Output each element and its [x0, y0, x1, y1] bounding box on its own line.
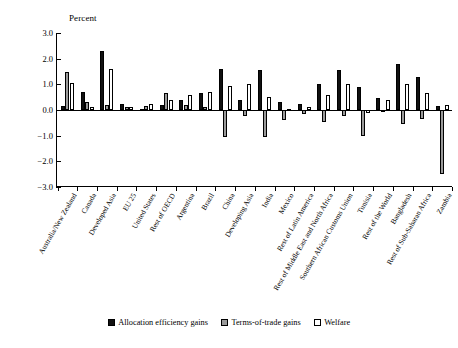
bar-1: [65, 72, 69, 111]
x-tick-mark: [373, 187, 374, 191]
bar-1: [381, 110, 385, 112]
bar-2: [267, 97, 271, 110]
bar-1: [85, 102, 89, 110]
bar-group: [160, 33, 173, 187]
bar-2: [188, 95, 192, 110]
bar-0: [357, 87, 361, 110]
x-tick-mark: [353, 187, 354, 191]
bar-0: [61, 106, 65, 110]
bar-2: [346, 84, 350, 110]
bar-0: [120, 104, 124, 110]
x-tick-mark: [452, 187, 453, 191]
bar-0: [100, 51, 104, 110]
bar-group: [179, 33, 192, 187]
y-axis-title: Percent: [69, 13, 97, 23]
bar-1: [322, 110, 326, 122]
bar-0: [396, 64, 400, 110]
legend-label: Welfare: [324, 318, 350, 327]
x-tick-mark: [413, 187, 414, 191]
y-tick-label: 0.0: [42, 106, 53, 115]
bar-2: [326, 95, 330, 110]
x-tick-mark: [334, 187, 335, 191]
bar-2: [208, 92, 212, 110]
bar-group: [140, 33, 153, 187]
bar-0: [81, 92, 85, 110]
bar-2: [149, 104, 153, 110]
bar-1: [203, 107, 207, 110]
x-axis-label: China: [220, 192, 235, 211]
x-tick-mark: [432, 187, 433, 191]
x-axis-label: Canada: [80, 192, 97, 215]
bar-group: [219, 33, 232, 187]
x-tick-mark: [176, 187, 177, 191]
bar-1: [243, 110, 247, 116]
bar-2: [70, 83, 74, 110]
legend-swatch-icon: [314, 319, 321, 326]
x-tick-mark: [97, 187, 98, 191]
bar-group: [100, 33, 113, 187]
bar-0: [337, 70, 341, 110]
bar-0: [179, 100, 183, 110]
x-tick-mark: [58, 187, 59, 191]
bar-0: [258, 70, 262, 110]
bar-group: [258, 33, 271, 187]
x-tick-mark: [215, 187, 216, 191]
x-axis-label: Australia/New Zealand: [37, 192, 78, 255]
bar-1: [184, 105, 188, 110]
bar-1: [125, 107, 129, 110]
legend-item: Allocation efficiency gains: [108, 318, 208, 327]
bar-group: [317, 33, 330, 187]
bar-group: [396, 33, 409, 187]
bar-1: [440, 110, 444, 174]
legend-label: Terms-of-trade gains: [231, 318, 300, 327]
bar-group: [278, 33, 291, 187]
legend-label: Allocation efficiency gains: [118, 318, 208, 327]
bar-2: [169, 100, 173, 110]
bar-group: [81, 33, 94, 187]
x-tick-mark: [136, 187, 137, 191]
y-tick-label: −3.0: [38, 183, 53, 192]
bar-0: [278, 102, 282, 110]
legend-item: Terms-of-trade gains: [221, 318, 301, 327]
bar-2: [307, 107, 311, 110]
chart-legend: Allocation efficiency gainsTerms-of-trad…: [0, 318, 458, 327]
bar-2: [90, 107, 94, 110]
bar-1: [223, 110, 227, 137]
x-tick-mark: [393, 187, 394, 191]
y-tick-label: −2.0: [38, 157, 53, 166]
y-tick-label: −1.0: [38, 131, 53, 140]
y-tick-label: 1.0: [42, 80, 53, 89]
bar-1: [282, 110, 286, 120]
bar-1: [420, 110, 424, 119]
bar-0: [238, 100, 242, 110]
bar-1: [263, 110, 267, 137]
bar-2: [109, 69, 113, 110]
x-axis-label: Zambia: [435, 192, 453, 215]
x-axis-label: India: [261, 192, 275, 209]
bar-0: [317, 84, 321, 110]
legend-item: Welfare: [314, 318, 351, 327]
bar-group: [337, 33, 350, 187]
bar-group: [376, 33, 389, 187]
x-tick-mark: [235, 187, 236, 191]
bar-0: [298, 104, 302, 110]
x-tick-mark: [156, 187, 157, 191]
bar-0: [436, 106, 440, 110]
bar-group: [120, 33, 133, 187]
bar-2: [425, 93, 429, 110]
bar-2: [405, 84, 409, 110]
x-axis-label: EU 25: [121, 192, 137, 212]
bar-2: [247, 84, 251, 110]
bar-1: [342, 110, 346, 116]
x-axis-label: Mexico: [277, 192, 295, 215]
bar-group: [298, 33, 311, 187]
bar-0: [199, 93, 203, 110]
bar-2: [366, 110, 370, 113]
legend-swatch-icon: [221, 319, 228, 326]
bar-1: [105, 105, 109, 110]
x-axis-label: Tunisia: [356, 192, 373, 215]
plot-area: [58, 33, 452, 187]
bar-group: [357, 33, 370, 187]
x-tick-mark: [255, 187, 256, 191]
bar-group: [199, 33, 212, 187]
